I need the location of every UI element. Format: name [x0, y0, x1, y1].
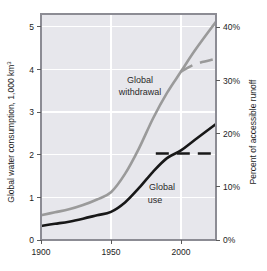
- y-tick-label: 4: [29, 65, 34, 75]
- annotation-global-withdrawal-line1: Global: [127, 75, 153, 85]
- y-tick-label: 5: [29, 22, 34, 32]
- y-axis-title: Global water consumption, 1,000 km3: [6, 61, 16, 203]
- y-tick-label: 3: [29, 107, 34, 117]
- water-consumption-line-chart: 0123450%10%20%30%40%190019502000 Global …: [0, 0, 267, 271]
- x-tick-label: 1950: [102, 247, 121, 257]
- y2-tick-label: 30%: [223, 76, 240, 86]
- plot-area-background: [41, 14, 216, 240]
- x-tick-label: 1900: [32, 247, 51, 257]
- chart-figure: 0123450%10%20%30%40%190019502000 Global …: [0, 0, 267, 271]
- x-tick-label: 2000: [172, 247, 191, 257]
- y-tick-label: 2: [29, 150, 34, 160]
- y2-axis-title: Percent of accessible runoff: [248, 79, 258, 184]
- annotation-global-use-line1: Global: [149, 182, 175, 192]
- y-tick-label: 0: [29, 235, 34, 245]
- y2-tick-label: 40%: [223, 22, 240, 32]
- y2-tick-label: 10%: [223, 182, 240, 192]
- annotation-global-use-line2: use: [148, 195, 163, 205]
- y2-tick-label: 0%: [223, 235, 236, 245]
- y2-tick-label: 20%: [223, 129, 240, 139]
- annotation-global-withdrawal-line2: withdrawal: [118, 87, 162, 97]
- y-tick-label: 1: [29, 193, 34, 203]
